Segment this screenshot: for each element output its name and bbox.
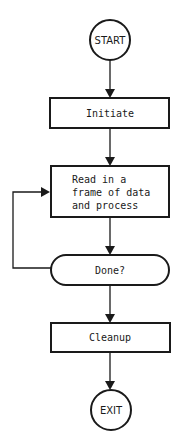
arrow-down-icon (105, 381, 115, 390)
cleanup-node: Cleanup (51, 323, 170, 352)
arrow-down-icon (105, 246, 115, 255)
process-label-line-2: frame of data (72, 187, 150, 198)
exit-node: EXIT (91, 390, 131, 430)
arrow-right-icon (41, 187, 50, 197)
start-label: START (95, 35, 127, 46)
flowchart: START Initiate Read in a frame of data a… (0, 0, 186, 444)
arrow-down-icon (105, 157, 115, 166)
cleanup-label: Cleanup (89, 332, 131, 343)
process-label-line-1: Read in a (72, 174, 126, 185)
initiate-node: Initiate (50, 98, 169, 128)
arrow-down-icon (105, 314, 115, 323)
process-node: Read in a frame of data and process (51, 166, 169, 217)
process-label-line-3: and process (72, 200, 138, 211)
arrow-down-icon (105, 89, 115, 98)
exit-label: EXIT (100, 405, 123, 416)
edge-done-loop-back (13, 192, 51, 268)
done-decision-node: Done? (51, 255, 169, 285)
start-node: START (90, 20, 130, 60)
done-label: Done? (95, 265, 125, 276)
initiate-label: Initiate (86, 108, 134, 119)
